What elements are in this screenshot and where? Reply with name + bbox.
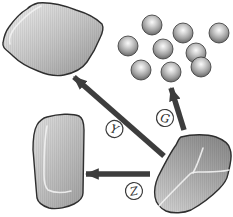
grain-sphere (173, 23, 193, 43)
arrow-crystal-to-fragment (74, 77, 164, 156)
rounded-slab-shape (33, 114, 84, 208)
arrow-label-to-slab: Z (124, 181, 143, 200)
grain-sphere (191, 57, 211, 77)
grain-sphere (131, 60, 151, 80)
angular-fragment-shape (3, 3, 103, 76)
grain-sphere (161, 62, 181, 82)
grain-sphere (153, 39, 173, 59)
arrow-label-to-grains: G (155, 108, 175, 128)
large-crystal-shape (155, 135, 232, 213)
diagram-canvas: Y G Z (0, 0, 233, 217)
grain-sphere (118, 36, 138, 56)
grain-sphere (209, 23, 229, 43)
grain-sphere (142, 15, 162, 35)
crystal-change-diagram: Y G Z (0, 0, 233, 217)
arrow-crystal-to-grains (171, 88, 184, 130)
grain-cluster (118, 15, 229, 82)
